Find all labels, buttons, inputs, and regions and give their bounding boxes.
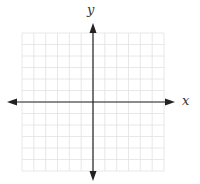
y-axis-label: y — [87, 2, 94, 17]
coordinate-plane — [0, 0, 200, 184]
x-axis-right-arrow-icon — [165, 99, 175, 106]
y-axis-up-arrow-icon — [90, 23, 97, 33]
x-axis-left-arrow-icon — [7, 99, 17, 106]
x-axis — [7, 99, 175, 106]
y-axis-down-arrow-icon — [90, 171, 97, 181]
x-axis-label: x — [182, 93, 189, 108]
